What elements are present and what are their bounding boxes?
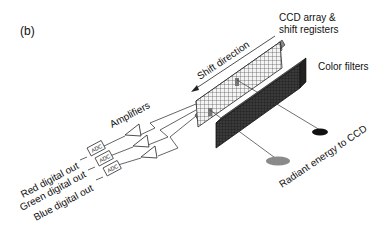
black-spot (312, 129, 328, 136)
gray-spot (266, 157, 290, 166)
arrowhead-icon (191, 85, 199, 92)
ccd-array-label-line1: CCD array & (279, 12, 336, 23)
amplifiers-label: Amplifiers (108, 99, 152, 129)
amplifier-icon (133, 135, 149, 147)
panel-label: (b) (20, 24, 35, 38)
signal-wires (140, 104, 196, 156)
color-filters-label: Color filters (318, 61, 369, 72)
amplifier-icon (125, 124, 141, 136)
amplifier-icon (141, 146, 157, 158)
ccd-diagram: (b) Shift direction CCD array & shift re… (0, 0, 386, 239)
ccd-array-label-line2: shift registers (279, 24, 338, 35)
